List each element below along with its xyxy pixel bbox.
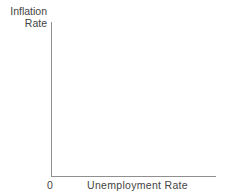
phillips-curve-chart: Inflation Rate 0 Unemployment Rate [0,0,231,193]
x-axis-label: Unemployment Rate [55,179,220,191]
y-axis-label: Inflation Rate [0,5,47,29]
y-axis-line [51,22,52,177]
x-axis-line [51,176,216,177]
